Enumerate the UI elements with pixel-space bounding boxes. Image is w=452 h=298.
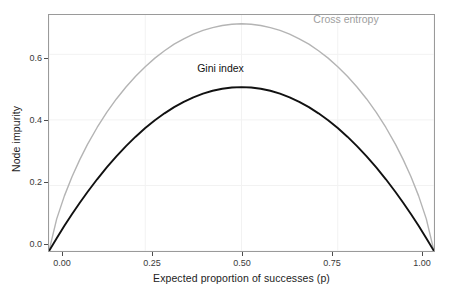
chart-figure: Node impurity 0.6 0.4 0.2 0.0 Cross entr… — [0, 0, 452, 298]
plot-area-svg — [49, 15, 434, 251]
x-tick-label-1.00: 1.00 — [397, 258, 447, 268]
y-tick-label-0.6: 0.6 — [8, 53, 42, 63]
x-tick-mark-0.75 — [332, 252, 333, 256]
x-tick-mark-0.50 — [242, 252, 243, 256]
x-tick-label-0.25: 0.25 — [127, 258, 177, 268]
y-tick-label-0.2: 0.2 — [8, 177, 42, 187]
x-tick-mark-0.00 — [62, 252, 63, 256]
x-axis-title: Expected proportion of successes (p) — [48, 272, 435, 284]
annotation-gini-index: Gini index — [197, 62, 244, 74]
y-tick-label-0.4: 0.4 — [8, 115, 42, 125]
x-tick-mark-0.25 — [152, 252, 153, 256]
plot-panel: Cross entropy Gini index — [48, 14, 435, 252]
x-tick-mark-1.00 — [422, 252, 423, 256]
x-tick-label-0.00: 0.00 — [37, 258, 87, 268]
x-tick-label-0.75: 0.75 — [307, 258, 357, 268]
annotation-cross-entropy: Cross entropy — [313, 13, 378, 25]
x-tick-label-0.50: 0.50 — [217, 258, 267, 268]
y-tick-label-0.0: 0.0 — [8, 239, 42, 249]
gridlines — [49, 15, 434, 251]
